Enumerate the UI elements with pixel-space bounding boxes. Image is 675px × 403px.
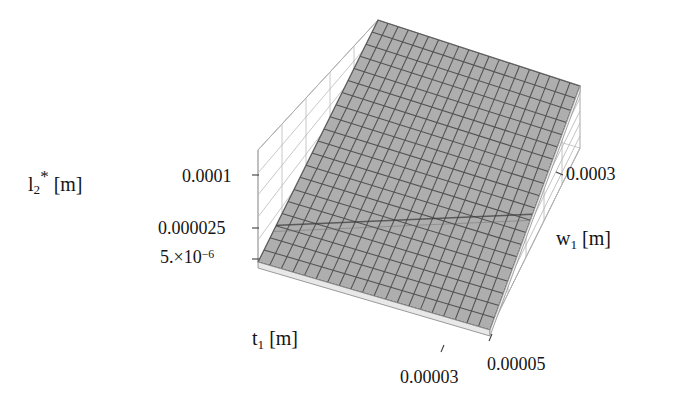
z-tick-exponent: −6 (202, 247, 215, 261)
z-axis-tick-label-1: 0.000025 (158, 219, 226, 237)
surface-shade (258, 20, 580, 330)
surface-mesh (258, 20, 580, 336)
x-axis-label-unit: [m] (269, 327, 298, 349)
z-axis-label: l2* [m] (28, 168, 83, 196)
z-axis-label-star: * (40, 167, 49, 186)
z-axis-label-unit: [m] (54, 173, 83, 195)
x-axis-tick-label-0: 0.00003 (400, 368, 459, 386)
y-axis-label-sub: 1 (570, 237, 577, 252)
x-axis-label-sub: 1 (258, 337, 265, 352)
x-axis-label: t1 [m] (252, 328, 298, 351)
z-tick-mantissa: 5.×10 (160, 247, 202, 267)
y-axis-tick-label-0: 0.0003 (566, 165, 616, 183)
plot-canvas (0, 0, 675, 403)
y-axis-label: w1 [m] (556, 228, 611, 251)
z-axis-tick-label-2: 5.×10−6 (160, 248, 214, 266)
x-tick-mark-0 (441, 345, 444, 352)
y-axis-label-prefix: w (556, 227, 570, 249)
z-axis-tick-label-0: 0.0001 (182, 167, 232, 185)
x-axis-tick-label-1: 0.00005 (487, 355, 546, 373)
y-axis-label-unit: [m] (582, 227, 611, 249)
surface-plot-figure: l2* [m] w1 [m] t1 [m] 0.0001 0.000025 5.… (0, 0, 675, 403)
